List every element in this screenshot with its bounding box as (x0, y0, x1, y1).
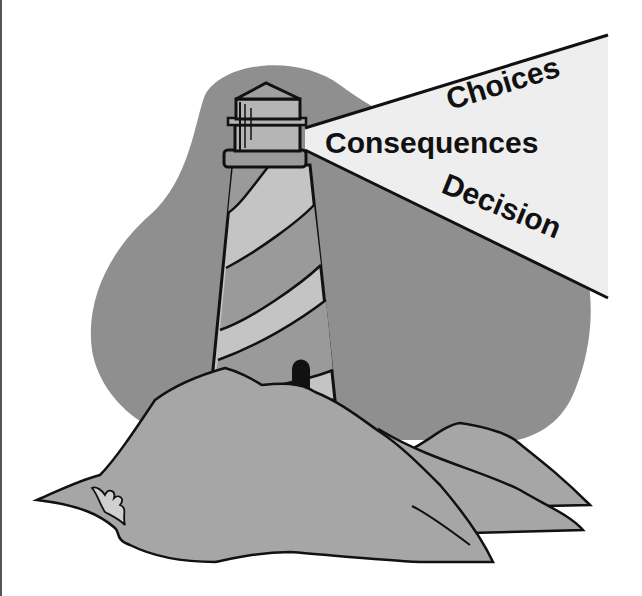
beam-word-consequences: Consequences (325, 126, 538, 159)
lamp-gallery (224, 150, 306, 167)
lighthouse-illustration: Choices Consequences Decision (0, 0, 642, 596)
